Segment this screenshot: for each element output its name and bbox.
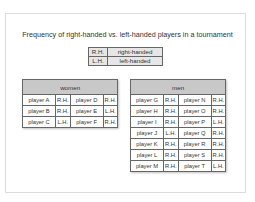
legend-meaning: left-handed <box>108 57 163 66</box>
handedness: R.H. <box>211 106 226 117</box>
handedness: R.H. <box>103 95 118 106</box>
legend-row: L.H. left-handed <box>89 57 163 66</box>
table-row: player M R.H. player T L.H. <box>131 161 226 172</box>
legend-meaning: right-handed <box>108 48 163 57</box>
table-row: player J L.H. player Q R.H. <box>131 128 226 139</box>
handedness: L.H. <box>211 117 226 128</box>
player-name: player L <box>131 150 164 161</box>
player-name: player C <box>23 117 56 128</box>
handedness: R.H. <box>164 139 179 150</box>
table-row: player I R.H. player P L.H. <box>131 117 226 128</box>
player-name: player B <box>23 106 56 117</box>
player-name: player K <box>131 139 164 150</box>
player-name: player N <box>178 95 211 106</box>
table-row: player L R.H. player S R.H. <box>131 150 226 161</box>
player-name: player O <box>178 106 211 117</box>
player-name: player T <box>178 161 211 172</box>
table-row: player H R.H. player O R.H. <box>131 106 226 117</box>
legend-abbr: L.H. <box>89 57 108 66</box>
handedness: L.H. <box>56 117 71 128</box>
women-header: women <box>23 80 118 95</box>
men-header: men <box>131 80 226 95</box>
handedness: R.H. <box>164 95 179 106</box>
handedness: R.H. <box>211 95 226 106</box>
table-row: player B R.H. player E L.H. <box>23 106 118 117</box>
table-row: player K R.H. player R R.H. <box>131 139 226 150</box>
player-name: player E <box>70 106 103 117</box>
handedness: L.H. <box>103 106 118 117</box>
handedness: L.H. <box>164 128 179 139</box>
legend-row: R.H. right-handed <box>89 48 163 57</box>
player-name: player F <box>70 117 103 128</box>
handedness: R.H. <box>56 106 71 117</box>
handedness: L.H. <box>211 161 226 172</box>
handedness: R.H. <box>164 117 179 128</box>
handedness: R.H. <box>211 150 226 161</box>
player-name: player S <box>178 150 211 161</box>
player-name: player H <box>131 106 164 117</box>
handedness: R.H. <box>164 150 179 161</box>
player-name: player G <box>131 95 164 106</box>
player-name: player A <box>23 95 56 106</box>
player-name: player J <box>131 128 164 139</box>
player-name: player P <box>178 117 211 128</box>
player-name: player M <box>131 161 164 172</box>
handedness: R.H. <box>164 161 179 172</box>
handedness: R.H. <box>56 95 71 106</box>
legend-abbr: R.H. <box>89 48 108 57</box>
men-table: men player G R.H. player N R.H. player H… <box>130 79 226 172</box>
player-name: player R <box>178 139 211 150</box>
player-name: player Q <box>178 128 211 139</box>
legend-table: R.H. right-handed L.H. left-handed <box>88 47 163 66</box>
handedness: R.H. <box>211 139 226 150</box>
handedness: R.H. <box>164 106 179 117</box>
handedness: R.H. <box>211 128 226 139</box>
player-name: player D <box>70 95 103 106</box>
table-row: player A R.H. player D R.H. <box>23 95 118 106</box>
figure-title: Frequency of right-handed vs. left-hande… <box>0 30 255 39</box>
handedness: R.H. <box>103 117 118 128</box>
women-table: women player A R.H. player D R.H. player… <box>22 79 118 128</box>
table-row: player G R.H. player N R.H. <box>131 95 226 106</box>
table-row: player C L.H. player F R.H. <box>23 117 118 128</box>
player-name: player I <box>131 117 164 128</box>
